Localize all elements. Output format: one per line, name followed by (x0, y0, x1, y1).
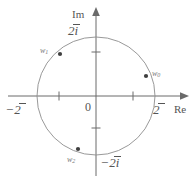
radical-bar-real-neg (19, 103, 26, 104)
real-negative-tick-label: −2 (6, 103, 21, 116)
figure-canvas (0, 0, 196, 184)
sqrt-radical-imag-pos: 2 (67, 24, 75, 37)
point-label-w0-sub: 0 (157, 72, 160, 78)
imaginary-negative-tick-value: 2 (109, 155, 116, 170)
real-negative-tick-value: 2 (14, 102, 21, 117)
point-label-w1-sub: 1 (45, 49, 48, 55)
imaginary-unit-positive: i (75, 23, 79, 38)
imaginary-axis-arrowhead (92, 7, 100, 16)
real-positive-tick-value: 2 (153, 102, 160, 117)
sqrt-radical-real-neg: 2 (13, 103, 21, 116)
point-label-w1: w1 (40, 47, 48, 55)
sqrt-radical-real-pos: 2 (152, 103, 160, 116)
point-label-w2: w2 (67, 156, 75, 164)
imaginary-unit-negative: i (116, 155, 120, 170)
real-positive-tick-label: 2 (152, 103, 160, 116)
point-w2 (76, 147, 80, 151)
radical-bar-imag-neg (114, 156, 121, 157)
imaginary-positive-tick-value: 2 (68, 23, 75, 38)
sqrt-radical-imag-neg: 2 (108, 156, 116, 169)
point-label-w2-sub: 2 (72, 158, 75, 164)
complex-plane-figure: Im 2i −2i 2 Re −2 0 w0 w1 w2 (0, 0, 196, 184)
origin-label: 0 (85, 101, 91, 113)
real-axis-arrowhead (180, 92, 189, 100)
imaginary-positive-tick-label: 2i (67, 24, 78, 37)
radical-bar-imag-pos (73, 24, 80, 25)
point-w0 (144, 74, 148, 78)
imaginary-axis-label: Im (72, 9, 84, 20)
real-axis-label: Re (174, 104, 186, 115)
point-w1 (58, 52, 62, 56)
radical-bar-real-pos (158, 103, 165, 104)
imaginary-negative-tick-label: −2i (101, 156, 119, 169)
minus-sign-imag-neg: − (101, 155, 108, 170)
point-label-w0: w0 (152, 70, 160, 78)
minus-sign-real-neg: − (6, 102, 13, 117)
